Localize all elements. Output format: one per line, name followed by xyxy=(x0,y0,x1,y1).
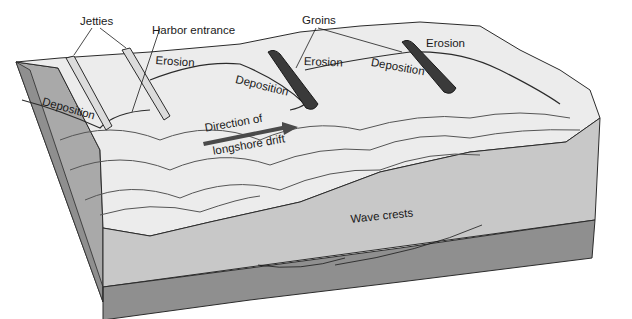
coastal-block-diagram: Jetties Harbor entrance Groins Erosion E… xyxy=(0,0,632,319)
label-jetties: Jetties xyxy=(80,16,113,28)
diagram-artwork xyxy=(0,0,632,319)
label-erosion-2: Erosion xyxy=(304,56,343,69)
label-groins: Groins xyxy=(302,15,336,27)
label-harbor-entrance: Harbor entrance xyxy=(152,25,235,37)
label-erosion-3: Erosion xyxy=(426,38,465,50)
